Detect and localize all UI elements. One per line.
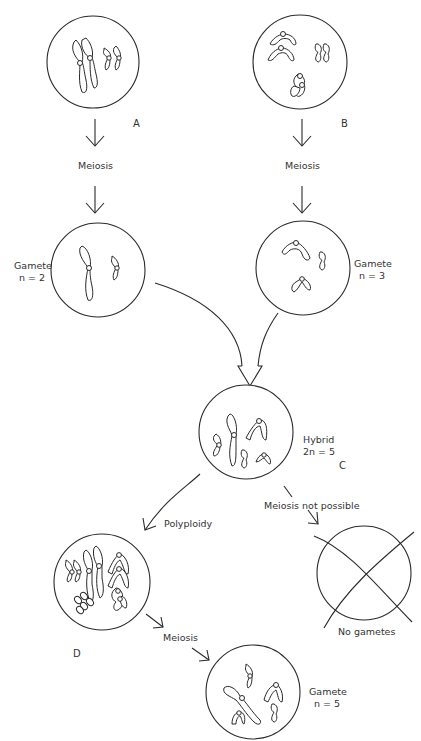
gamete-b-count: n = 3 [354,270,390,282]
hybrid-title: Hybrid [303,434,335,446]
meiosis-label-a: Meiosis [78,160,113,172]
arrow-a-down-1 [86,119,104,146]
d-meiosis-arrow-2 [192,648,209,661]
gamete-b-cell [256,221,350,315]
gamete-d-label: Gamete n = 5 [309,686,345,710]
cell-b [253,15,347,109]
meiosis-label-d: Meiosis [163,632,198,644]
gamete-a-count: n = 2 [14,272,50,284]
meiosis-not-possible-label: Meiosis not possible [264,500,360,512]
label-b: B [341,118,348,130]
merge-arrow [155,283,278,386]
gamete-b-title: Gamete [354,258,390,270]
polyploid-cell-d [54,534,150,630]
no-gametes-cell [314,526,414,628]
meiosis-label-b: Meiosis [285,160,320,172]
label-d: D [73,648,81,660]
d-meiosis-arrow-1 [146,614,163,628]
gamete-d-cell [206,645,300,739]
no-gametes-label: No gametes [338,626,395,638]
gamete-a-label: Gamete n = 2 [14,260,50,284]
label-c: C [339,460,346,472]
hybrid-cell-c [199,385,293,479]
gamete-d-count: n = 5 [309,698,345,710]
gamete-b-label: Gamete n = 3 [354,258,390,282]
hybrid-count: 2n = 5 [303,446,335,458]
gamete-a-cell [51,223,145,317]
gamete-a-title: Gamete [14,260,50,272]
arrow-b-down-1 [293,119,311,146]
arrow-a-down-2 [86,186,104,213]
arrow-b-down-2 [293,186,311,213]
label-a: A [133,118,140,130]
polyploidy-label: Polyploidy [164,518,212,530]
hybrid-label: Hybrid 2n = 5 [303,434,335,458]
cell-a [47,16,139,108]
gamete-d-title: Gamete [309,686,345,698]
